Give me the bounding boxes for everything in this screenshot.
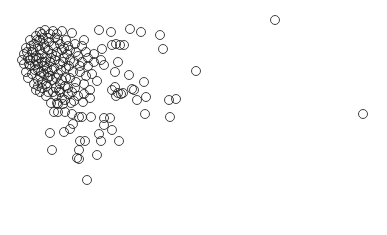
scatter-plot xyxy=(0,0,387,235)
